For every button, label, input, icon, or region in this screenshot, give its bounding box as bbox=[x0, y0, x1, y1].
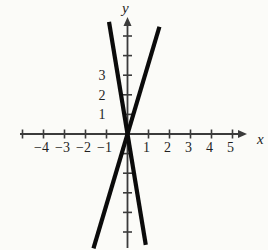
x-tick-label: 1 bbox=[143, 140, 150, 155]
x-tick-label: 3 bbox=[185, 140, 192, 155]
axes-layer bbox=[20, 17, 247, 248]
graph-svg: −4−3−2−112345123 x y bbox=[0, 0, 268, 250]
x-tick-label: −1 bbox=[97, 140, 112, 155]
x-tick-label: −2 bbox=[76, 140, 91, 155]
x-tick-label: 2 bbox=[164, 140, 171, 155]
x-axis-arrowhead bbox=[238, 130, 247, 138]
x-tick-label: 5 bbox=[227, 140, 234, 155]
plotted-line bbox=[93, 27, 159, 249]
y-tick-label: 1 bbox=[99, 107, 106, 122]
y-axis-arrowhead bbox=[124, 17, 132, 26]
x-tick-label: 4 bbox=[206, 140, 213, 155]
x-tick-label: −4 bbox=[34, 140, 49, 155]
x-tick-label: −3 bbox=[55, 140, 70, 155]
y-tick-label: 2 bbox=[99, 88, 106, 103]
x-axis-letter: x bbox=[256, 131, 264, 147]
figure-page: −4−3−2−112345123 x y bbox=[0, 0, 268, 250]
y-tick-label: 3 bbox=[99, 68, 106, 83]
y-axis-letter: y bbox=[120, 0, 129, 16]
